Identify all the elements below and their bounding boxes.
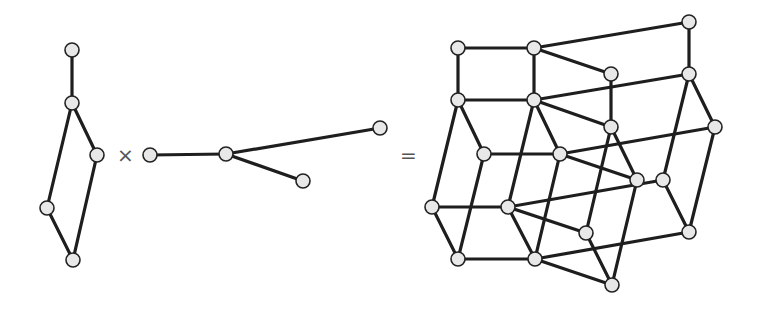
graph-h-edge bbox=[226, 128, 380, 154]
product-graph-node bbox=[528, 252, 542, 266]
graph-h-node bbox=[373, 121, 387, 135]
product-graph-edge bbox=[689, 74, 715, 127]
graph-h-edge bbox=[226, 154, 303, 181]
product-graph-node bbox=[579, 226, 593, 240]
product-graph-node bbox=[604, 120, 618, 134]
product-graph-node bbox=[682, 225, 696, 239]
product-graph-node bbox=[604, 67, 618, 81]
product-graph-edge bbox=[432, 207, 458, 259]
graph-g-node bbox=[66, 253, 80, 267]
graph-g-node bbox=[40, 201, 54, 215]
product-graph-node bbox=[451, 252, 465, 266]
graph-g-edge bbox=[72, 103, 97, 155]
graph-g-node bbox=[65, 96, 79, 110]
graph-product-diagram bbox=[0, 0, 762, 310]
product-graph-edge bbox=[432, 100, 458, 207]
product-graph-node bbox=[656, 173, 670, 187]
product-graph-edge bbox=[586, 127, 611, 233]
product-graph-node bbox=[527, 93, 541, 107]
graph-g-node bbox=[90, 148, 104, 162]
product-graph-node bbox=[682, 15, 696, 29]
product-graph-edge bbox=[534, 22, 689, 48]
product-graph-node bbox=[477, 147, 491, 161]
product-graph-node bbox=[501, 200, 515, 214]
graph-g-edge bbox=[47, 103, 72, 208]
product-graph-edge bbox=[535, 232, 689, 259]
product-graph-edge bbox=[534, 48, 611, 74]
product-graph-edge bbox=[612, 180, 637, 285]
product-graph-node bbox=[451, 41, 465, 55]
graph-g-node bbox=[65, 43, 79, 57]
product-graph-node bbox=[605, 278, 619, 292]
graph-h-node bbox=[143, 148, 157, 162]
product-graph-node bbox=[630, 173, 644, 187]
product-graph-node bbox=[527, 41, 541, 55]
product-graph-edge bbox=[458, 100, 484, 154]
product-graph-edge bbox=[663, 74, 689, 180]
graph-h-edge bbox=[150, 154, 226, 155]
product-graph-node bbox=[553, 147, 567, 161]
times-operator: × bbox=[117, 145, 134, 165]
product-graph-node bbox=[682, 67, 696, 81]
product-graph-edge bbox=[560, 127, 715, 154]
graph-g-edge bbox=[73, 155, 97, 260]
product-graph-node bbox=[708, 120, 722, 134]
equals-operator: = bbox=[400, 145, 417, 165]
product-graph-edge bbox=[689, 127, 715, 232]
product-graph-edge bbox=[535, 154, 560, 259]
graph-g-edge bbox=[47, 208, 73, 260]
product-graph-node bbox=[425, 200, 439, 214]
graph-h-node bbox=[219, 147, 233, 161]
product-graph-node bbox=[451, 93, 465, 107]
graph-h-node bbox=[296, 174, 310, 188]
product-graph-edge bbox=[663, 180, 689, 232]
